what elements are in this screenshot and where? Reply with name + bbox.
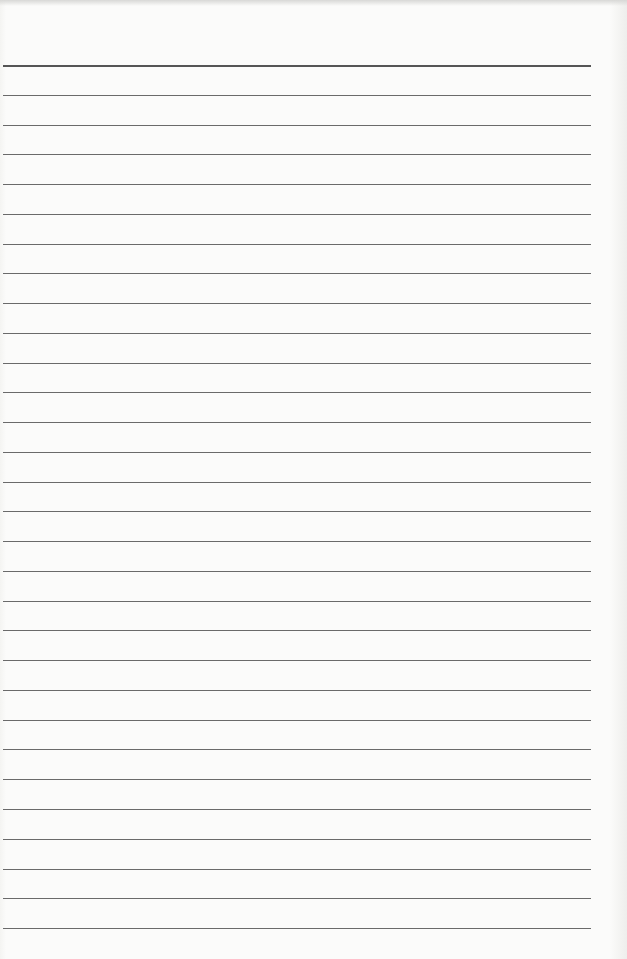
ruled-line [3, 154, 591, 155]
ruled-line [3, 125, 591, 126]
ruled-line [3, 244, 591, 245]
ruled-line [3, 333, 591, 334]
ruled-line [3, 571, 591, 572]
ruled-line [3, 839, 591, 840]
ruled-line [3, 720, 591, 721]
ruled-line [3, 214, 591, 215]
ruled-line [3, 303, 591, 304]
ruled-line [3, 541, 591, 542]
ruled-line [3, 898, 591, 899]
ruled-line [3, 482, 591, 483]
ruled-line [3, 184, 591, 185]
ruled-line [3, 273, 591, 274]
ruled-line [3, 660, 591, 661]
ruled-line [3, 630, 591, 631]
ruled-line [3, 65, 591, 67]
ruled-line [3, 511, 591, 512]
lined-paper-page [0, 0, 627, 959]
ruled-line [3, 869, 591, 870]
ruled-line [3, 95, 591, 96]
ruled-line [3, 690, 591, 691]
ruled-line [3, 809, 591, 810]
ruled-line [3, 363, 591, 364]
ruled-line [3, 392, 591, 393]
ruled-line [3, 452, 591, 453]
scan-edge-shadow [0, 0, 627, 6]
ruled-line [3, 928, 591, 929]
ruled-line [3, 749, 591, 750]
ruled-line [3, 422, 591, 423]
ruled-line [3, 601, 591, 602]
ruled-line [3, 779, 591, 780]
